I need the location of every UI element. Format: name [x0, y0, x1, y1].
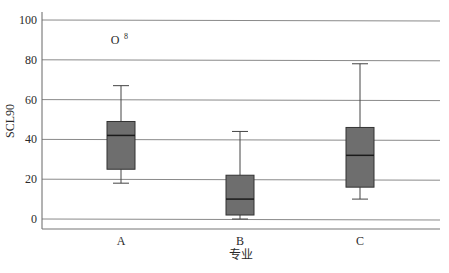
iqr-box	[226, 175, 254, 215]
box-B	[226, 131, 254, 219]
y-tick-40: 40	[25, 132, 37, 146]
x-tick-B: B	[236, 234, 244, 248]
gridline-80	[42, 60, 440, 61]
x-tick-labels: ABC	[117, 234, 364, 248]
box-C	[346, 64, 374, 199]
iqr-box	[346, 127, 374, 187]
box-plot-chart: 020406080100 ABC O8 SCL90 专业	[0, 0, 449, 273]
y-axis-title: SCL90	[3, 104, 17, 138]
outlier-markers: O8	[111, 32, 128, 47]
y-tick-100: 100	[19, 13, 37, 27]
iqr-box	[107, 121, 135, 169]
x-axis-title: 专业	[229, 247, 253, 262]
y-tick-labels: 020406080100	[19, 13, 37, 226]
y-tick-60: 60	[25, 93, 37, 107]
y-tick-20: 20	[25, 172, 37, 186]
outlier-marker: O	[111, 33, 120, 47]
outlier-case-label: 8	[124, 32, 128, 41]
x-tick-C: C	[356, 234, 364, 248]
gridline-60	[42, 100, 440, 101]
gridline-100	[42, 20, 440, 21]
y-tick-0: 0	[31, 212, 37, 226]
y-tick-80: 80	[25, 53, 37, 67]
boxes	[107, 64, 374, 219]
gridline-40	[42, 139, 440, 140]
x-tick-A: A	[117, 234, 126, 248]
